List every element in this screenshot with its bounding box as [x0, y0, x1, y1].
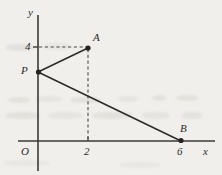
point-label-P: P — [21, 65, 28, 76]
point-P-marker — [36, 69, 41, 74]
coordinate-geometry-figure: y x O 4 2 6 P A B — [0, 0, 222, 175]
segment-PA — [38, 48, 88, 72]
x-tick-label-6: 6 — [177, 146, 183, 157]
y-axis-label: y — [28, 7, 33, 18]
origin-label: O — [21, 146, 29, 157]
x-tick-label-2: 2 — [84, 146, 90, 157]
point-A-marker — [85, 45, 90, 50]
x-axis-label: x — [203, 146, 208, 157]
point-B-marker — [178, 138, 183, 143]
y-tick-label-4: 4 — [25, 41, 31, 52]
segment-PB — [38, 72, 181, 141]
point-label-A: A — [93, 32, 100, 43]
diagram-canvas — [0, 0, 222, 175]
point-label-B: B — [180, 123, 187, 134]
